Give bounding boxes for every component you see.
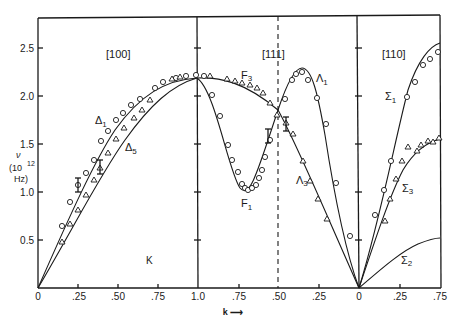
label-sigma1: Σ1 <box>385 90 397 105</box>
x-tick-labels: 0 .25 .50 .75 1.0 .75 .50 .25 0 .25 .75 <box>35 291 447 302</box>
y-tick-labels: 2.5 2.0 1.5 1.0 0.5 <box>20 43 34 246</box>
y-axis-ticks <box>38 48 362 240</box>
svg-text:.25: .25 <box>72 291 86 302</box>
svg-text:(10: (10 <box>9 163 22 173</box>
svg-text:.75: .75 <box>433 291 447 302</box>
direction-label-111: [111] <box>262 48 285 60</box>
svg-text:.50: .50 <box>111 291 125 302</box>
svg-text:.25: .25 <box>393 291 407 302</box>
gamma-point-divider <box>357 16 359 288</box>
curve-delta5 <box>38 78 197 288</box>
svg-text:1.0: 1.0 <box>191 291 205 302</box>
svg-text:.75: .75 <box>232 291 246 302</box>
svg-text:ν: ν <box>16 150 21 160</box>
label-delta5: Δ5 <box>125 141 137 156</box>
dispersion-curves <box>38 43 440 288</box>
label-delta1: Δ1 <box>95 114 107 129</box>
svg-text:0: 0 <box>35 291 41 302</box>
direction-label-110: [110] <box>382 48 406 60</box>
label-F3: F3 <box>241 69 253 83</box>
plot-frame <box>38 15 441 288</box>
x-axis-title: k ⟶ <box>223 307 244 317</box>
label-F1: F1 <box>241 197 253 212</box>
phonon-dispersion-chart: 2.5 2.0 1.5 1.0 0.5 ν (10 12 Hz) 0 .25 .… <box>0 0 455 327</box>
y-axis-title: ν (10 12 Hz) <box>9 150 35 184</box>
k-point-label: K <box>146 255 153 266</box>
direction-label-100: [100] <box>106 48 130 60</box>
label-lambda3: Λ3 <box>296 174 308 188</box>
y-tick-label: 2.0 <box>20 91 34 102</box>
svg-text:.50: .50 <box>272 291 286 302</box>
svg-text:12: 12 <box>27 160 35 167</box>
svg-text:0: 0 <box>356 291 362 302</box>
label-sigma2: Σ2 <box>401 254 413 268</box>
label-lambda1: Λ1 <box>316 72 328 87</box>
curve-delta1 <box>38 78 197 288</box>
curve-lambda1 <box>278 68 359 288</box>
label-sigma3: Σ3 <box>402 182 414 196</box>
y-tick-label: 1.5 <box>20 139 34 150</box>
svg-text:.25: .25 <box>312 291 326 302</box>
y-tick-label: 1.0 <box>20 187 34 198</box>
x-point-divider <box>197 17 198 288</box>
y-tick-label: 2.5 <box>20 43 34 54</box>
svg-text:Hz): Hz) <box>14 174 28 184</box>
y-tick-label: 0.5 <box>20 235 34 246</box>
svg-text:.75: .75 <box>151 291 165 302</box>
